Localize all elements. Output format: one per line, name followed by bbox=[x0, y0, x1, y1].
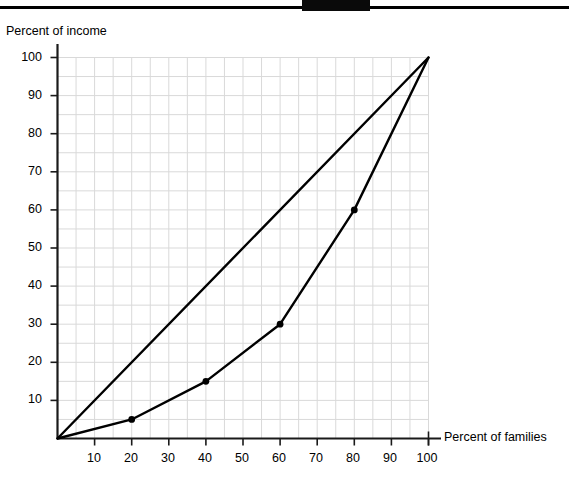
data-point-marker bbox=[203, 378, 210, 385]
data-point-marker bbox=[351, 207, 358, 214]
lorenz-curve-chart: Percent of income Percent of families 10… bbox=[0, 0, 569, 489]
data-point-marker bbox=[128, 416, 135, 423]
plot-area bbox=[0, 0, 569, 489]
data-point-marker bbox=[277, 321, 284, 328]
